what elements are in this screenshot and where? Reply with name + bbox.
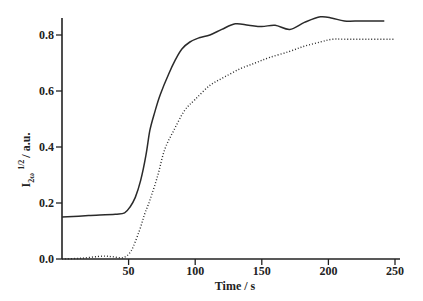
y-tick-label: 0.0 [39,252,54,266]
x-tick-label: 250 [386,264,404,278]
y-axis-title-sup: 1/2 [17,160,26,170]
y-tick-label: 0.4 [39,140,54,154]
series-group [62,17,395,259]
x-tick-label: 50 [123,264,135,278]
x-tick-label: 100 [186,264,204,278]
y-tick-label: 0.8 [39,28,54,42]
y-tick-label: 0.2 [39,196,54,210]
series-dotted-line [62,39,395,259]
series-solid-line [62,17,384,217]
y-axis-title-sub: 2ω [27,173,36,183]
x-tick-label: 150 [253,264,271,278]
x-axis-title: Time / s [215,279,256,293]
axes [62,18,400,259]
y-axis-title-rest: / a.u. [19,133,33,159]
ticks: 501001502002500.00.20.40.60.8 [39,28,404,278]
line-chart: 501001502002500.00.20.40.60.8 Time / s I… [0,0,423,301]
svg-text:I2ω1/2/ a.u.: I2ω1/2/ a.u. [17,133,36,188]
y-tick-label: 0.6 [39,84,54,98]
x-tick-label: 200 [319,264,337,278]
y-axis-title: I2ω1/2/ a.u. [17,133,36,188]
